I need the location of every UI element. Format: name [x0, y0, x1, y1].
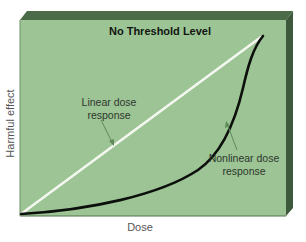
y-axis-label: Harmful effect — [4, 77, 17, 171]
nonlinear-annotation-line2: response — [196, 165, 292, 178]
panel-top-bevel — [20, 11, 293, 20]
chart-title: No Threshold Level — [100, 25, 220, 38]
panel-right-side — [286, 11, 293, 216]
x-axis-label: Dose — [110, 221, 170, 234]
linear-dose-annotation: Linear dose response — [64, 96, 154, 122]
dose-response-figure: No Threshold Level Linear dose response … — [0, 0, 306, 242]
linear-annotation-line1: Linear dose — [64, 96, 154, 109]
nonlinear-annotation-line1: Nonlinear dose — [196, 152, 292, 165]
linear-annotation-line2: response — [64, 109, 154, 122]
nonlinear-dose-annotation: Nonlinear dose response — [196, 152, 292, 178]
